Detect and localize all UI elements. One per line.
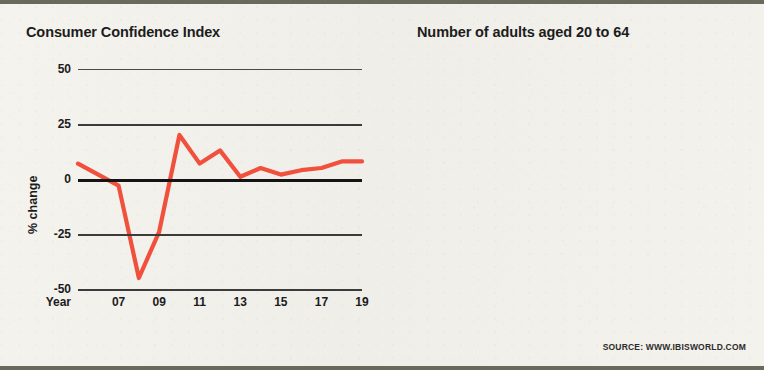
chart-panel-consumer-confidence: Consumer Confidence Index % change Year … xyxy=(0,4,392,374)
x-tick-11: 11 xyxy=(193,295,206,309)
plot-area-left: Year 50250-25-5007091113151719 xyxy=(78,69,362,289)
source-note: SOURCE: WWW.IBISWORLD.COM xyxy=(603,342,746,352)
chart-title-left: Consumer Confidence Index xyxy=(26,24,220,40)
x-axis-label-left: Year xyxy=(46,295,71,309)
gridline-50 xyxy=(78,69,362,70)
x-tick-15: 15 xyxy=(274,295,287,309)
y-tick-25: 25 xyxy=(58,117,71,131)
data-line xyxy=(78,135,362,278)
gridline-0 xyxy=(78,179,362,182)
y-tick-0: 0 xyxy=(64,172,71,186)
x-tick-19: 19 xyxy=(355,295,368,309)
x-tick-07: 07 xyxy=(112,295,125,309)
x-tick-17: 17 xyxy=(315,295,328,309)
x-tick-09: 09 xyxy=(152,295,165,309)
y-tick-50: 50 xyxy=(58,62,71,76)
y-tick--25: -25 xyxy=(54,227,71,241)
chart-title-right: Number of adults aged 20 to 64 xyxy=(417,24,629,40)
gridline--50 xyxy=(78,289,362,291)
gridline-25 xyxy=(78,124,362,126)
figure-container: Consumer Confidence Index % change Year … xyxy=(0,0,764,370)
y-axis-label-left: % change xyxy=(26,176,40,234)
y-tick--50: -50 xyxy=(54,282,71,296)
gridline--25 xyxy=(78,234,362,236)
chart-panel-adults-20-64: Number of adults aged 20 to 64 % change … xyxy=(392,4,764,374)
x-tick-13: 13 xyxy=(234,295,247,309)
